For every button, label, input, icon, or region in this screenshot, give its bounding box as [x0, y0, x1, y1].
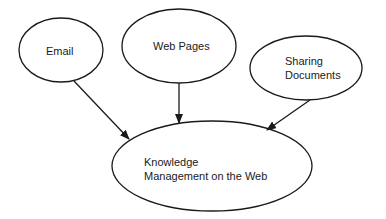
arrow-sharing-documents-to-knowledge: [267, 100, 310, 130]
arrow-email-to-knowledge: [74, 81, 129, 139]
node-web-pages-label: Web Pages: [153, 39, 210, 53]
diagram-canvas: [0, 0, 386, 219]
node-email-text: Email: [46, 44, 74, 58]
node-sharing-documents-line-1: Sharing: [285, 54, 341, 68]
node-sharing-documents-line-2: Documents: [285, 68, 341, 82]
node-knowledge-management-line-2: Management on the Web: [144, 169, 267, 183]
node-knowledge-management-label: Knowledge Management on the Web: [144, 155, 267, 183]
node-knowledge-management-line-1: Knowledge: [144, 155, 267, 169]
node-email-label: Email: [46, 44, 74, 58]
node-web-pages-text: Web Pages: [153, 39, 210, 53]
node-sharing-documents-label: Sharing Documents: [285, 54, 341, 82]
